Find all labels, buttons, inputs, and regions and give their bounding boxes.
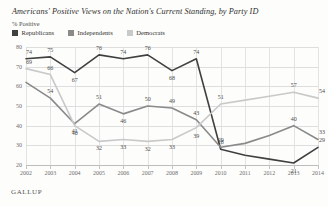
data-point-label: 76 xyxy=(96,45,102,51)
x-axis-tick xyxy=(123,165,124,169)
data-point-label: 74 xyxy=(193,49,199,55)
data-point-label: 40 xyxy=(72,130,78,136)
x-axis-tick xyxy=(318,165,319,169)
chart-subtitle: % Positive xyxy=(12,20,40,27)
data-point-label: 33 xyxy=(169,144,175,150)
data-point-label: 67 xyxy=(72,77,78,83)
data-point-label: 66 xyxy=(47,65,53,71)
chart-legend: RepublicansIndependentsDemocrats xyxy=(12,29,179,36)
data-point-label: 39 xyxy=(193,133,199,139)
data-point-label: 21 xyxy=(291,168,297,174)
legend-item-independents[interactable]: Independents xyxy=(68,29,113,36)
legend-swatch-icon xyxy=(12,30,18,36)
data-point-label: 32 xyxy=(96,145,102,151)
data-point-label: 29 xyxy=(319,137,325,143)
data-point-label: 29 xyxy=(218,137,224,143)
data-point-label: 74 xyxy=(120,49,126,55)
y-axis-tick-label: 20 xyxy=(6,162,22,168)
data-point-label: 49 xyxy=(169,98,175,104)
y-axis-tick-label: 70 xyxy=(6,64,22,70)
x-axis-tick xyxy=(196,165,197,169)
data-point-label: 54 xyxy=(47,88,53,94)
data-point-label: 33 xyxy=(120,144,126,150)
data-point-label: 51 xyxy=(218,94,224,100)
x-axis-tick xyxy=(50,165,51,169)
data-point-label: 57 xyxy=(291,82,297,88)
legend-swatch-icon xyxy=(127,30,133,36)
data-point-label: 46 xyxy=(120,118,126,124)
data-point-label: 69 xyxy=(26,59,32,65)
x-axis-tick xyxy=(148,165,149,169)
x-axis-tick xyxy=(75,165,76,169)
x-axis-tick xyxy=(99,165,100,169)
x-axis-tick xyxy=(221,165,222,169)
x-axis-tick-label: 2014 xyxy=(303,170,328,176)
data-point-label: 43 xyxy=(193,110,199,116)
legend-item-label: Democrats xyxy=(136,29,165,36)
y-axis-tick-label: 50 xyxy=(6,103,22,109)
y-axis-tick-label: 60 xyxy=(6,83,22,89)
x-axis-tick xyxy=(269,165,270,169)
x-axis-tick xyxy=(172,165,173,169)
source-label: GALLUP xyxy=(11,188,42,196)
data-point-label: 32 xyxy=(145,146,151,152)
data-point-label: 68 xyxy=(169,75,175,81)
chart-title: Americans' Positive Views on the Nation'… xyxy=(12,7,258,16)
legend-item-label: Independents xyxy=(78,29,113,36)
chart-container: Americans' Positive Views on the Nation'… xyxy=(0,0,328,206)
y-axis-tick-label: 30 xyxy=(6,142,22,148)
legend-swatch-icon xyxy=(68,30,74,36)
data-point-label: 50 xyxy=(145,96,151,102)
legend-item-democrats[interactable]: Democrats xyxy=(127,29,165,36)
data-point-label: 75 xyxy=(47,47,53,53)
data-point-label: 40 xyxy=(291,116,297,122)
data-point-label: 74 xyxy=(26,49,32,55)
data-point-label: 51 xyxy=(96,94,102,100)
legend-item-label: Republicans xyxy=(22,29,55,36)
data-point-label: 76 xyxy=(145,45,151,51)
x-axis-tick xyxy=(26,165,27,169)
legend-item-republicans[interactable]: Republicans xyxy=(12,29,54,36)
data-point-label: 33 xyxy=(319,129,325,135)
y-axis-tick-label: 40 xyxy=(6,123,22,129)
data-point-label: 54 xyxy=(319,88,325,94)
y-axis-tick-label: 80 xyxy=(6,44,22,50)
x-axis-tick xyxy=(245,165,246,169)
